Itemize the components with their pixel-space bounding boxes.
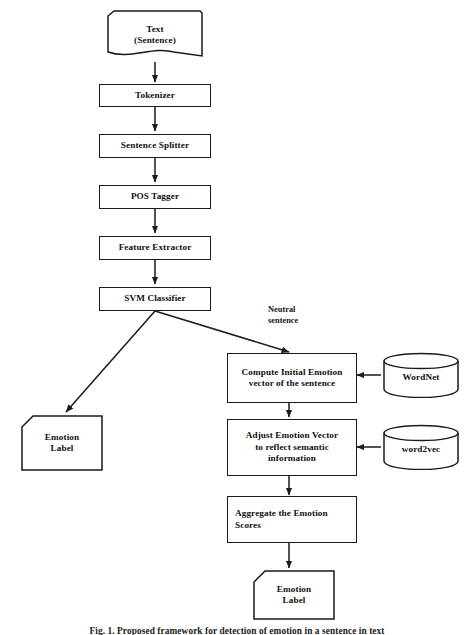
figure-caption: Fig. 1. Proposed framework for detection… — [0, 626, 474, 635]
node-feature-extractor-label: Feature Extractor — [119, 242, 192, 254]
node-emotion-label-left-label: Emotion Label — [45, 432, 79, 455]
node-compute-initial-emotion[interactable]: Compute Initial Emotion vector of the se… — [227, 353, 357, 403]
node-pos-tagger[interactable]: POS Tagger — [99, 185, 211, 209]
node-word2vec-label: word2vec — [402, 439, 441, 456]
edge-svm-to-emotion-label — [66, 311, 155, 412]
node-svm-classifier-label: SVM Classifier — [124, 293, 185, 305]
node-adjust-emotion-vector-label: Adjust Emotion Vector to reflect semanti… — [246, 430, 338, 465]
node-text-input[interactable]: Text (Sentence) — [100, 6, 210, 64]
node-emotion-label-bottom[interactable]: Emotion Label — [253, 570, 335, 620]
node-sentence-splitter[interactable]: Sentence Splitter — [99, 134, 211, 158]
node-aggregate-scores[interactable]: Aggregate the Emotion Scores — [227, 496, 357, 543]
annotation-neutral-sentence: Neutral sentence — [268, 305, 298, 326]
node-adjust-emotion-vector[interactable]: Adjust Emotion Vector to reflect semanti… — [227, 419, 357, 476]
node-word2vec[interactable]: word2vec — [383, 424, 459, 470]
node-pos-tagger-label: POS Tagger — [131, 191, 179, 203]
node-sentence-splitter-label: Sentence Splitter — [121, 140, 189, 152]
node-feature-extractor[interactable]: Feature Extractor — [99, 236, 211, 260]
node-aggregate-scores-label: Aggregate the Emotion Scores — [228, 508, 328, 531]
figure-canvas: Text (Sentence) Tokenizer Sentence Split… — [0, 0, 474, 635]
node-tokenizer-label: Tokenizer — [135, 90, 175, 102]
node-wordnet-label: WordNet — [403, 367, 440, 384]
node-emotion-label-left[interactable]: Emotion Label — [21, 415, 103, 471]
node-tokenizer[interactable]: Tokenizer — [99, 84, 211, 107]
node-wordnet[interactable]: WordNet — [383, 352, 459, 398]
node-text-input-label: Text (Sentence) — [134, 24, 176, 47]
node-compute-initial-emotion-label: Compute Initial Emotion vector of the se… — [242, 367, 343, 390]
node-emotion-label-bottom-label: Emotion Label — [277, 584, 311, 607]
node-svm-classifier[interactable]: SVM Classifier — [99, 287, 211, 311]
